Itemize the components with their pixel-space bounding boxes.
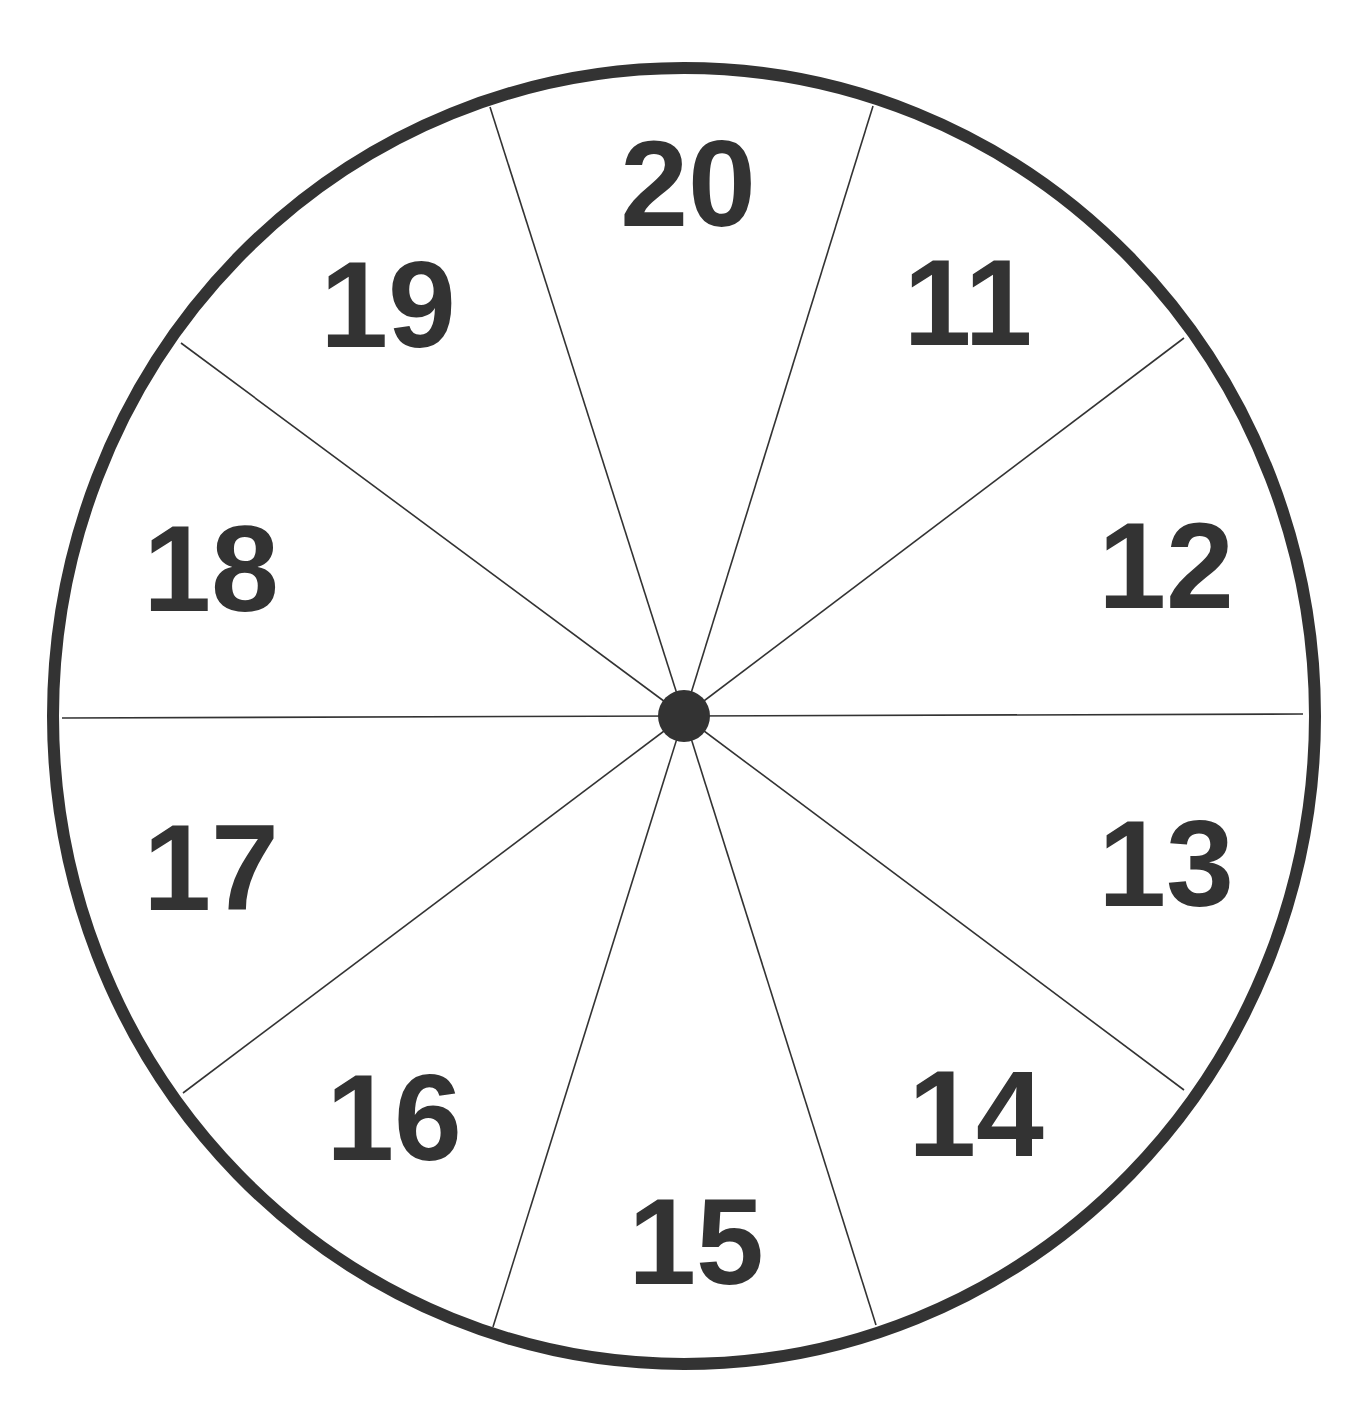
segment-label-13: 13 <box>1098 796 1234 932</box>
segment-label-18: 18 <box>143 501 279 637</box>
segment-label-19: 19 <box>320 237 456 373</box>
center-hub <box>658 690 710 742</box>
segment-label-17: 17 <box>143 800 279 936</box>
segment-label-14: 14 <box>908 1046 1044 1182</box>
segment-label-16: 16 <box>326 1050 462 1186</box>
divider-line <box>62 716 684 718</box>
spinner-wheel: 20 11 12 13 14 15 16 17 18 19 <box>0 0 1350 1413</box>
segment-label-12: 12 <box>1098 498 1234 634</box>
divider-line <box>684 714 1303 716</box>
segment-label-11: 11 <box>904 235 1033 371</box>
segment-label-20: 20 <box>620 116 756 252</box>
segment-label-15: 15 <box>628 1174 764 1310</box>
